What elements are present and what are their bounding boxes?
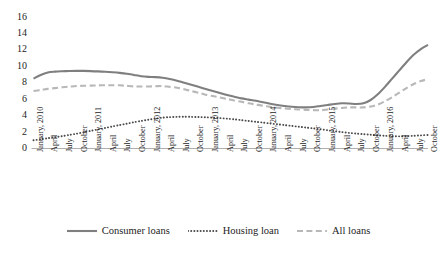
x-tick-label: October — [314, 125, 322, 151]
x-tick-label: April — [227, 134, 235, 151]
x-tick-label: October — [373, 125, 381, 151]
legend-item-all-loans[interactable]: All loans — [297, 225, 370, 236]
x-tick-label: April — [344, 134, 352, 151]
x-tick-label: April — [51, 134, 59, 151]
x-tick-label: July — [300, 138, 308, 152]
series-line-consumer-loans — [34, 45, 429, 107]
x-tick-label: October — [139, 125, 147, 151]
legend-label: All loans — [332, 225, 370, 236]
x-tick-label: January, 2013 — [212, 106, 220, 151]
chart-legend: Consumer loansHousing loanAll loans — [0, 225, 437, 236]
y-tick-label: 16 — [5, 12, 27, 22]
legend-swatch-dotted — [188, 226, 218, 236]
x-tick-label: April — [110, 134, 118, 151]
x-tick-label: July — [241, 138, 249, 152]
x-tick-label: July — [417, 138, 425, 152]
x-tick-label: October — [197, 125, 205, 151]
series-line-all-loans — [34, 79, 429, 110]
y-tick-label: 2 — [5, 127, 27, 137]
x-tick-label: January, 2011 — [95, 106, 103, 151]
y-tick-label: 14 — [5, 28, 27, 38]
x-tick-label: January, 2010 — [37, 106, 45, 151]
y-tick-label: 12 — [5, 44, 27, 54]
series-lines — [34, 45, 429, 140]
legend-swatch-solid — [67, 226, 97, 236]
legend-item-housing-loan[interactable]: Housing loan — [188, 225, 279, 236]
y-tick-label: 0 — [5, 143, 27, 153]
x-tick-label: October — [256, 125, 264, 151]
x-tick-label: April — [285, 134, 293, 151]
x-tick-label: July — [183, 138, 191, 152]
x-tick-label: January, 2016 — [387, 106, 395, 151]
x-tick-label: January, 2012 — [154, 106, 162, 151]
x-tick-label: January, 2014 — [270, 106, 278, 151]
x-tick-label: April — [402, 134, 410, 151]
legend-label: Consumer loans — [102, 225, 170, 236]
x-tick-label: October — [431, 125, 439, 151]
legend-label: Housing loan — [223, 225, 279, 236]
legend-swatch-dashed — [297, 226, 327, 236]
y-tick-label: 10 — [5, 61, 27, 71]
x-tick-label: July — [124, 138, 132, 152]
x-tick-label: October — [81, 125, 89, 151]
x-tick-label: April — [168, 134, 176, 151]
y-tick-label: 4 — [5, 110, 27, 120]
x-tick-label: January, 2015 — [329, 106, 337, 151]
y-tick-label: 6 — [5, 94, 27, 104]
x-tick-label: July — [358, 138, 366, 152]
y-tick-label: 8 — [5, 77, 27, 87]
x-tick-label: July — [66, 138, 74, 152]
legend-item-consumer-loans[interactable]: Consumer loans — [67, 225, 170, 236]
